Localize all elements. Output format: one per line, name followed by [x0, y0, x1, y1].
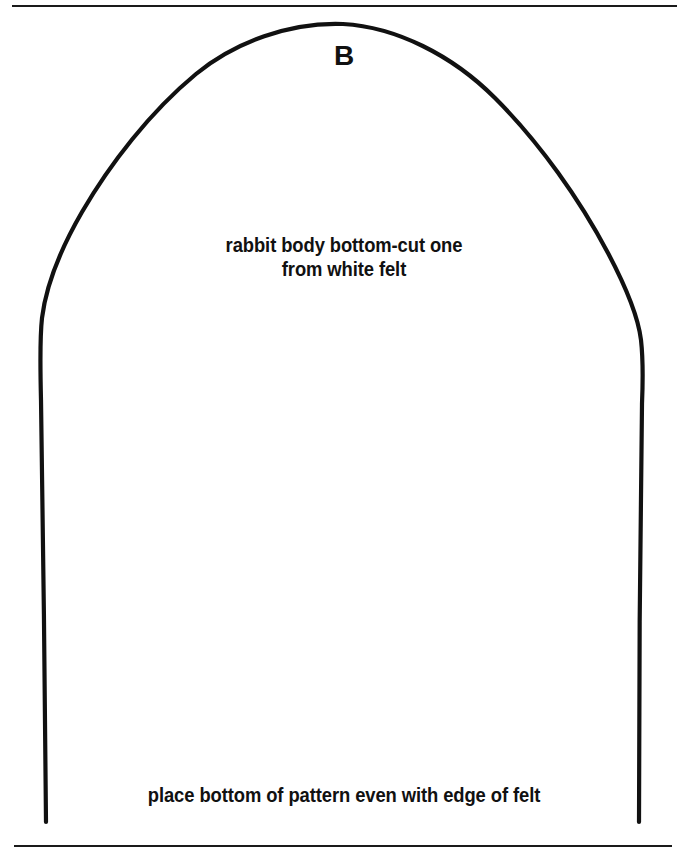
pattern-description: rabbit body bottom-cut one from white fe… — [28, 233, 661, 281]
pattern-description-line-1: rabbit body bottom-cut one — [226, 234, 463, 256]
pattern-piece-letter: B — [0, 42, 688, 70]
rabbit-body-bottom-outline — [0, 0, 688, 850]
pattern-placement-note: place bottom of pattern even with edge o… — [28, 783, 661, 807]
bottom-divider-rule — [14, 845, 672, 847]
pattern-sheet-page: B rabbit body bottom-cut one from white … — [0, 0, 688, 850]
pattern-description-line-2: from white felt — [28, 257, 661, 281]
